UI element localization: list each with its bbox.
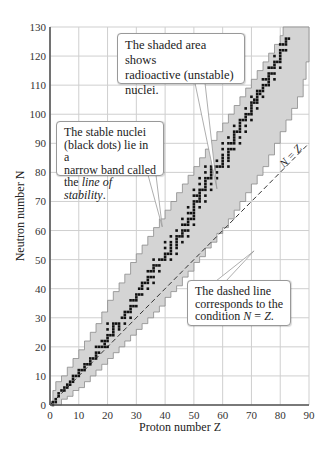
svg-text:80: 80 (35, 166, 47, 178)
callout-text: the line of stability. (64, 176, 156, 201)
svg-text:20: 20 (102, 409, 114, 421)
svg-text:130: 130 (30, 21, 47, 33)
callout-text: The stable nuclei (64, 126, 156, 139)
svg-text:90: 90 (304, 409, 316, 421)
callout-text: The shaded area shows (125, 38, 237, 68)
svg-text:0: 0 (47, 409, 53, 421)
svg-text:20: 20 (35, 341, 47, 353)
svg-text:70: 70 (35, 195, 47, 207)
svg-text:100: 100 (30, 108, 47, 120)
svg-text:10: 10 (35, 370, 47, 382)
callout-shaded-area: The shaded area shows radioactive (unsta… (117, 33, 245, 84)
svg-text:120: 120 (30, 50, 47, 62)
callout-text: radioactive (unstable) (125, 68, 237, 83)
svg-text:50: 50 (35, 254, 47, 266)
x-axis-label: Proton number Z (139, 420, 221, 434)
svg-text:110: 110 (30, 79, 47, 91)
callout-text: condition N = Z. (195, 310, 283, 323)
y-axis-label: Neutron number N (13, 170, 27, 261)
callout-text: (black dots) lie in a (64, 139, 156, 164)
callout-text: nuclei. (125, 83, 237, 98)
svg-text:0: 0 (41, 399, 47, 411)
svg-text:30: 30 (35, 312, 47, 324)
callout-dashed-line: The dashed line corresponds to the condi… (187, 280, 291, 326)
svg-text:10: 10 (73, 409, 85, 421)
svg-text:80: 80 (275, 409, 287, 421)
svg-text:60: 60 (35, 225, 47, 237)
callout-text: The dashed line (195, 285, 283, 298)
callout-stable-nuclei: The stable nuclei (black dots) lie in a … (56, 121, 164, 176)
svg-text:40: 40 (35, 283, 47, 295)
svg-text:70: 70 (246, 409, 258, 421)
svg-text:90: 90 (35, 137, 47, 149)
